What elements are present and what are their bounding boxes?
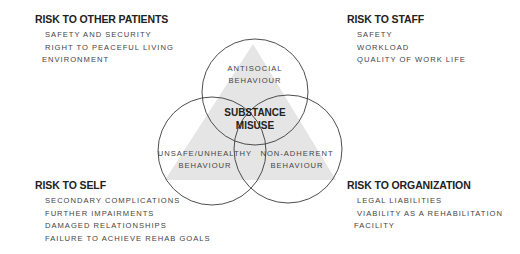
label-unsafe-unhealthy: UNSAFE/UNHEALTHY BEHAVIOUR <box>155 148 255 172</box>
risk-organization-title: RISK TO ORGANIZATION <box>347 179 503 192</box>
list-item: LEGAL LIABILITIES <box>357 195 503 208</box>
list-item: FURTHER IMPAIRMENTS <box>45 208 211 221</box>
list-item: SECONDARY COMPLICATIONS <box>45 195 211 208</box>
risk-staff-title: RISK TO STAFF <box>347 13 466 26</box>
list-item: QUALITY OF WORK LIFE <box>357 54 466 67</box>
label-nonadherent-line2: BEHAVIOUR <box>247 160 347 172</box>
label-nonadherent-line1: NON-ADHERENT <box>247 148 347 160</box>
list-item: DAMAGED RELATIONSHIPS <box>45 220 211 233</box>
risk-self-title: RISK TO SELF <box>35 179 211 192</box>
list-item: FAILURE TO ACHIEVE REHAB GOALS <box>45 233 211 246</box>
label-center-line1: SUBSTANCE <box>205 106 305 119</box>
label-unsafe-line1: UNSAFE/UNHEALTHY <box>155 148 255 160</box>
label-antisocial-line1: ANTISOCIAL <box>205 63 305 75</box>
list-item: SAFETY AND SECURITY <box>45 29 174 42</box>
label-antisocial-line2: BEHAVIOUR <box>205 75 305 87</box>
risk-staff-panel: RISK TO STAFF SAFETY WORKLOAD QUALITY OF… <box>347 13 466 67</box>
list-item: WORKLOAD <box>357 42 466 55</box>
list-item: RIGHT TO PEACEFUL LIVING <box>45 42 174 55</box>
risk-other-patients-list: SAFETY AND SECURITY RIGHT TO PEACEFUL LI… <box>45 29 174 67</box>
risk-staff-list: SAFETY WORKLOAD QUALITY OF WORK LIFE <box>357 29 466 67</box>
risk-organization-list: LEGAL LIABILITIES VIABILITY AS A REHABIL… <box>357 195 503 233</box>
list-item: VIABILITY AS A REHABILITATION <box>357 208 503 221</box>
list-item: SAFETY <box>357 29 466 42</box>
list-item: ENVIRONMENT <box>42 54 174 67</box>
risk-self-panel: RISK TO SELF SECONDARY COMPLICATIONS FUR… <box>35 179 211 246</box>
label-center-line2: MISUSE <box>205 119 305 132</box>
label-antisocial: ANTISOCIAL BEHAVIOUR <box>205 63 305 87</box>
risk-other-patients-panel: RISK TO OTHER PATIENTS SAFETY AND SECURI… <box>35 13 174 67</box>
risk-other-patients-title: RISK TO OTHER PATIENTS <box>35 13 174 26</box>
risk-organization-panel: RISK TO ORGANIZATION LEGAL LIABILITIES V… <box>347 179 503 233</box>
label-substance-misuse: SUBSTANCE MISUSE <box>205 106 305 132</box>
list-item: FACILITY <box>354 220 503 233</box>
risk-self-list: SECONDARY COMPLICATIONS FURTHER IMPAIRME… <box>45 195 211 246</box>
label-unsafe-line2: BEHAVIOUR <box>155 160 255 172</box>
label-non-adherent: NON-ADHERENT BEHAVIOUR <box>247 148 347 172</box>
